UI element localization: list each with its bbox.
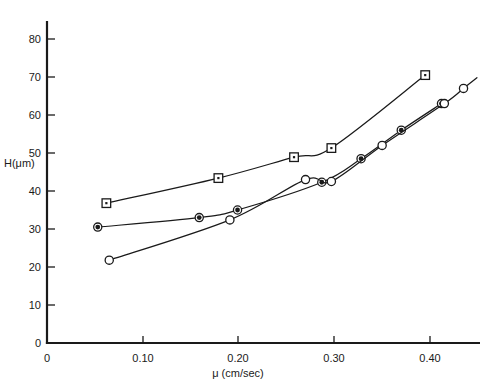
y-tick-label-70: 70 (29, 71, 41, 83)
series-filled-circles-point-2 (233, 206, 241, 214)
x-axis-title: μ (cm/sec) (212, 367, 264, 379)
series-layer (94, 71, 477, 264)
series-filled-circles-point-1 (195, 214, 203, 222)
y-tick-labels: 80 70 60 50 40 30 20 10 0 (29, 33, 41, 349)
series-filled-circles-curve (98, 104, 442, 228)
series-squares-point-4 (421, 71, 430, 80)
series-squares-point-3 (327, 144, 336, 153)
chart-figure: 80 70 60 50 40 30 20 10 0 0 0.10 0.20 0.… (0, 0, 480, 380)
series-open-circles-point-6 (459, 84, 467, 92)
x-tick-label-040: 0.40 (419, 352, 440, 364)
x-tick-labels: 0 0.10 0.20 0.30 0.40 (44, 352, 441, 364)
series-open-circles-point-0 (105, 256, 113, 264)
series-open-circles (105, 78, 477, 265)
x-tick-label-0: 0 (44, 352, 50, 364)
series-squares-point-1 (214, 174, 223, 183)
series-open-circles-point-1 (226, 216, 234, 224)
series-squares-point-2 (290, 153, 299, 162)
y-tick-label-80: 80 (29, 33, 41, 45)
series-open-circles-point-3 (327, 177, 335, 185)
x-tick-label-030: 0.30 (323, 352, 344, 364)
x-tick-label-020: 0.20 (227, 352, 248, 364)
series-open-circles-point-2 (301, 176, 309, 184)
y-tick-marks (47, 39, 55, 305)
axes-group (47, 22, 479, 343)
x-tick-label-010: 0.10 (132, 352, 153, 364)
series-squares (102, 71, 429, 208)
y-tick-label-60: 60 (29, 109, 41, 121)
chart-svg: 80 70 60 50 40 30 20 10 0 0 0.10 0.20 0.… (0, 0, 480, 380)
y-tick-label-20: 20 (29, 261, 41, 273)
y-tick-label-30: 30 (29, 223, 41, 235)
series-open-circles-curve (109, 78, 477, 260)
y-tick-label-10: 10 (29, 299, 41, 311)
y-tick-label-0: 0 (35, 337, 41, 349)
series-filled-circles-point-0 (94, 223, 102, 231)
series-filled-circles (94, 100, 446, 232)
y-axis-title: H(μm) (4, 157, 35, 169)
series-open-circles-point-4 (378, 141, 386, 149)
y-tick-label-40: 40 (29, 185, 41, 197)
series-open-circles-point-5 (440, 100, 448, 108)
series-squares-curve (106, 75, 425, 203)
series-squares-point-0 (102, 199, 111, 208)
